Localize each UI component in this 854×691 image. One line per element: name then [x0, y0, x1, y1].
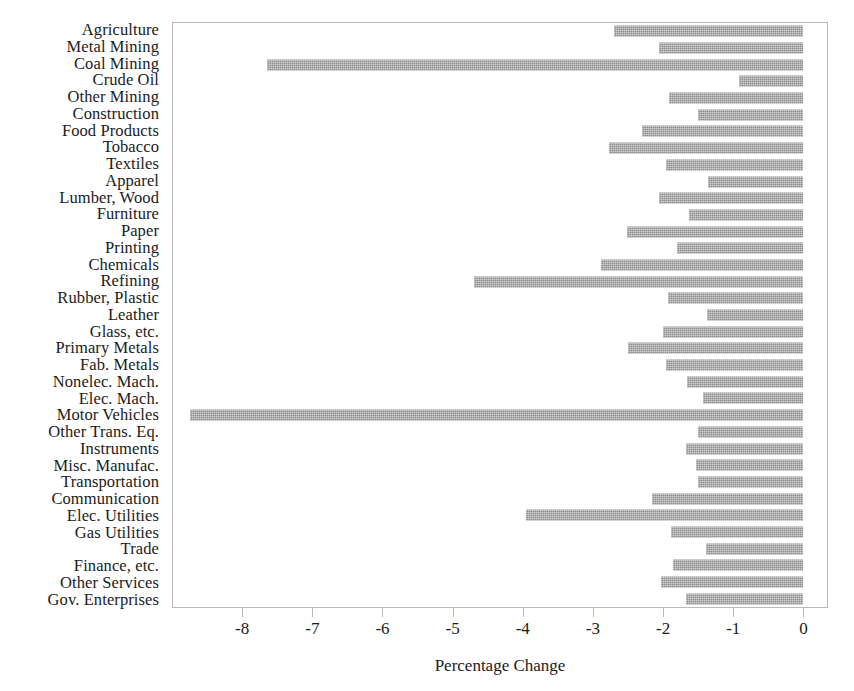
y-axis-label: Other Services [0, 575, 165, 592]
bar [628, 343, 803, 354]
bar-row [173, 190, 827, 207]
bar [474, 276, 802, 287]
bar [686, 593, 802, 604]
bar-row [173, 207, 827, 224]
x-axis-tick-label: -6 [375, 620, 389, 637]
x-axis-tick [382, 608, 383, 617]
x-axis-tick-label: -1 [726, 620, 740, 637]
bar [652, 493, 802, 504]
bar [666, 159, 802, 170]
bar-row [173, 440, 827, 457]
x-axis-tick [593, 608, 594, 617]
x-axis-tick-label: -8 [235, 620, 249, 637]
bar-row [173, 590, 827, 607]
bar [267, 59, 802, 70]
bar-row [173, 323, 827, 340]
bar [666, 360, 802, 371]
y-axis-label: Gov. Enterprises [0, 592, 165, 609]
bar [687, 376, 802, 387]
chart-page: AgricultureMetal MiningCoal MiningCrude … [0, 0, 854, 691]
bar-row [173, 23, 827, 40]
bar [661, 577, 803, 588]
bar [698, 426, 802, 437]
x-axis-title: Percentage Change [172, 656, 828, 676]
bar-row [173, 557, 827, 574]
x-axis-tick-label: -7 [305, 620, 319, 637]
bar-row [173, 457, 827, 474]
bar-row [173, 140, 827, 157]
x-axis-tick [733, 608, 734, 617]
bar-row [173, 106, 827, 123]
x-axis-tick-label: 0 [799, 620, 808, 637]
bar-row [173, 474, 827, 491]
bar-row [173, 373, 827, 390]
bar-row [173, 240, 827, 257]
bar [614, 26, 802, 37]
bar-row [173, 390, 827, 407]
x-axis-tick [453, 608, 454, 617]
bar-row [173, 290, 827, 307]
bar-row [173, 56, 827, 73]
bar [696, 460, 802, 471]
y-axis-category-labels: AgricultureMetal MiningCoal MiningCrude … [0, 22, 165, 608]
bar [601, 259, 802, 270]
bar [627, 226, 803, 237]
bar-row [173, 507, 827, 524]
bar-row [173, 524, 827, 541]
bar [706, 543, 803, 554]
x-axis-tick-label: -5 [446, 620, 460, 637]
bar [689, 209, 802, 220]
bar [677, 243, 803, 254]
x-axis-tick [242, 608, 243, 617]
y-axis-label: Elec. Utilities [0, 508, 165, 525]
bar-row [173, 40, 827, 57]
bar [739, 76, 803, 87]
y-axis-label: Construction [0, 106, 165, 123]
bar [190, 410, 802, 421]
bar-row [173, 90, 827, 107]
bar-row [173, 357, 827, 374]
bar-row [173, 574, 827, 591]
x-axis-tick [803, 608, 804, 617]
bar [703, 393, 802, 404]
bar-row [173, 257, 827, 274]
bar-row [173, 73, 827, 90]
x-axis-tick [663, 608, 664, 617]
y-axis-label: Printing [0, 240, 165, 257]
bar [642, 126, 802, 137]
x-axis: -8-7-6-5-4-3-2-10 [172, 608, 828, 654]
y-axis-label: Apparel [0, 173, 165, 190]
bar-row [173, 340, 827, 357]
bar [698, 476, 802, 487]
x-axis-tick [312, 608, 313, 617]
bar [663, 326, 803, 337]
bar [668, 293, 802, 304]
y-axis-label: Instruments [0, 441, 165, 458]
x-axis-tick-label: -3 [586, 620, 600, 637]
y-axis-label: Metal Mining [0, 39, 165, 56]
x-axis-tick-label: -2 [656, 620, 670, 637]
bar-row [173, 273, 827, 290]
bar [526, 510, 802, 521]
plot-area [172, 22, 828, 608]
bar-series [173, 23, 827, 607]
bar-row [173, 424, 827, 441]
y-axis-label: Leather [0, 307, 165, 324]
bar [669, 93, 803, 104]
bar [671, 526, 802, 537]
bar-row [173, 123, 827, 140]
bar [698, 109, 802, 120]
y-axis-label: Nonelec. Mach. [0, 374, 165, 391]
bar-row [173, 407, 827, 424]
bar-row [173, 173, 827, 190]
x-axis-tick-label: -4 [516, 620, 530, 637]
bar [708, 176, 802, 187]
bar-row [173, 540, 827, 557]
bar-row [173, 490, 827, 507]
bar [686, 443, 802, 454]
bar-row [173, 307, 827, 324]
bar [609, 143, 803, 154]
x-axis-tick [523, 608, 524, 617]
bar-row [173, 223, 827, 240]
bar [707, 310, 803, 321]
